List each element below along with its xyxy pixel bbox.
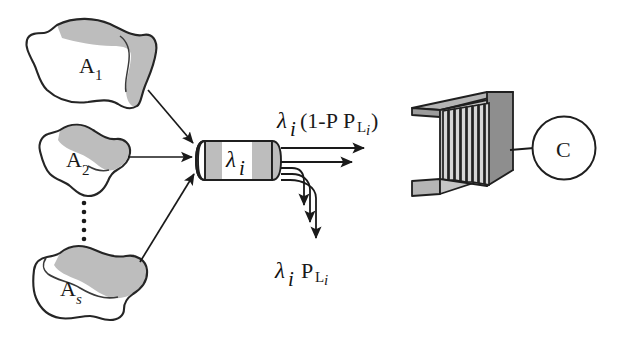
- queue-slot: [485, 103, 489, 185]
- link-cylinder: λ i: [196, 141, 281, 180]
- loss-p-sub-l: L: [315, 269, 324, 285]
- throughput-expr-close: ): [371, 108, 378, 133]
- loss-lambda-sub: i: [288, 267, 294, 291]
- figure-canvas: A 1 A 2 A s: [0, 0, 618, 340]
- queue-top-plate-front: [412, 108, 440, 117]
- queue-slot: [449, 109, 454, 180]
- arrival-arrow-a1: [148, 90, 193, 143]
- blob-a2-label-letter: A: [66, 147, 82, 172]
- loss-arrows: [281, 168, 316, 238]
- throughput-expr-open: (1-P: [300, 108, 338, 133]
- source-ellipsis: [82, 201, 87, 251]
- blob-as-label: A s: [60, 276, 82, 307]
- blob-a2-label-sub: 2: [82, 162, 90, 178]
- queue-slot: [473, 105, 478, 183]
- source-blob-a1: A 1: [26, 19, 156, 108]
- loss-p: P: [301, 258, 313, 283]
- cylinder-lambda-sub: i: [239, 156, 245, 180]
- blob-a1-label-sub: 1: [95, 67, 103, 83]
- queue-bottom-plate: [412, 179, 440, 196]
- queueing-diagram: A 1 A 2 A s: [0, 0, 618, 340]
- cylinder-lambda: λ: [225, 147, 236, 172]
- ellipsis-dot: [82, 210, 87, 215]
- loss-p-sub-i: i: [324, 272, 328, 288]
- throughput-arrows: [281, 148, 364, 162]
- throughput-lambda-sub: i: [290, 117, 296, 141]
- blob-a1-label-letter: A: [79, 53, 95, 78]
- queue-buffer: [412, 92, 513, 196]
- blob-as-label-sub: s: [76, 291, 82, 307]
- ellipsis-dot: [82, 201, 87, 206]
- throughput-lambda: λ: [276, 108, 287, 133]
- queue-right-face: [487, 92, 513, 186]
- throughput-expr-p: P: [343, 108, 355, 133]
- ellipsis-dot: [82, 219, 87, 224]
- queue-slot: [461, 107, 466, 182]
- throughput-expr-sub-i: i: [366, 122, 370, 138]
- arrival-arrow-as: [140, 174, 194, 262]
- throughput-label: λ i (1-P P L i ): [276, 108, 378, 141]
- cylinder-right-cap: [272, 141, 281, 180]
- server-node: C: [533, 117, 596, 180]
- source-blob-a2: A 2: [39, 125, 130, 196]
- source-blob-as: A s: [33, 246, 147, 320]
- loss-lambda: λ: [274, 258, 285, 283]
- throughput-expr-sub-l: L: [357, 119, 366, 135]
- queue-slots: [443, 103, 489, 185]
- queue-slot: [455, 108, 460, 181]
- queue-slot: [467, 106, 472, 182]
- queue-slot: [443, 110, 448, 180]
- ellipsis-dot: [82, 228, 87, 233]
- loss-label: λ i P L i: [274, 258, 328, 291]
- server-circle-label: C: [556, 137, 571, 162]
- arrival-arrows: [128, 90, 194, 262]
- blob-as-label-letter: A: [60, 276, 76, 301]
- ellipsis-dot: [82, 237, 87, 242]
- queue-slot: [479, 104, 484, 184]
